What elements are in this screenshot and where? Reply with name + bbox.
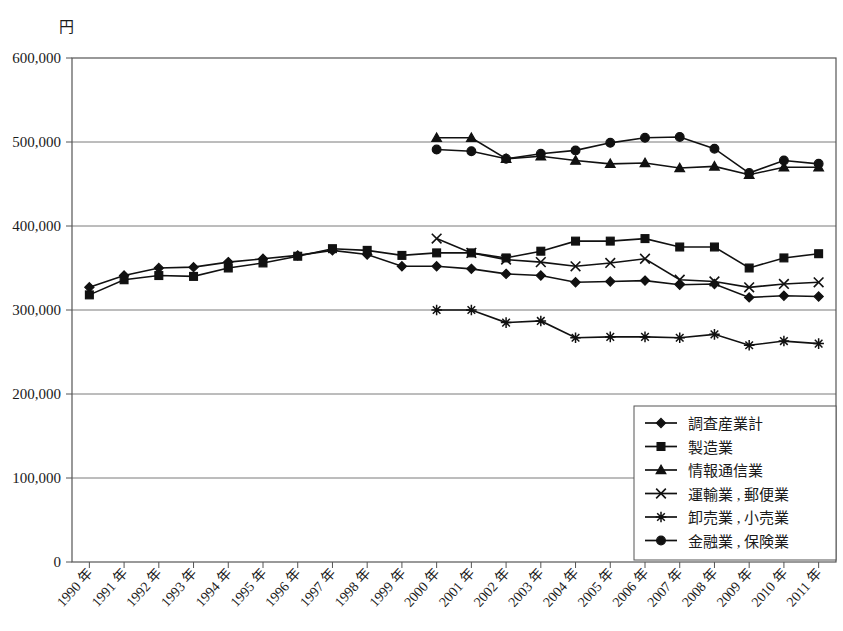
x-tick-label: 1998 年 [332,566,374,610]
marker-square [155,272,163,280]
marker-diamond [814,292,823,301]
x-tick-label: 2010 年 [749,566,791,610]
marker-square [676,243,684,251]
x-tick-label: 2011 年 [784,566,825,609]
marker-square [657,443,665,451]
marker-diamond [432,262,441,271]
marker-square [641,235,649,243]
marker-square [433,249,441,257]
marker-x [432,234,442,244]
marker-circle [675,133,684,142]
legend-label: 製造業 [688,440,733,456]
marker-diamond [675,280,684,289]
x-tick-label: 2006 年 [610,566,652,610]
marker-circle [780,156,789,165]
marker-diamond [189,263,198,272]
marker-circle [432,145,441,154]
y-tick-label: 500,000 [12,134,61,150]
marker-square [815,250,823,258]
marker-asterisk [570,332,581,343]
marker-square [745,264,753,272]
marker-square [780,254,788,262]
marker-square [294,252,302,260]
marker-square [329,245,337,253]
x-tick-label: 2009 年 [714,566,756,610]
x-tick-label: 1999 年 [367,566,409,610]
marker-square [120,276,128,284]
x-tick-label: 1992 年 [123,566,165,610]
marker-circle [467,147,476,156]
marker-circle [641,133,650,142]
legend-label: 運輸業 , 郵便業 [688,487,789,503]
marker-diamond [467,264,476,273]
marker-square [711,243,719,251]
marker-diamond [745,293,754,302]
marker-asterisk [813,338,824,349]
series-line [89,250,818,297]
x-tick-label: 2003 年 [505,566,547,610]
x-tick-label: 1990 年 [54,566,96,610]
legend-label: 金融業 , 保険業 [688,534,789,550]
marker-square [363,246,371,254]
series-line [437,310,819,345]
x-tick-label: 2001 年 [436,566,478,610]
marker-circle [745,169,754,178]
marker-diamond [606,277,615,286]
marker-diamond [501,269,510,278]
series-4 [431,305,824,351]
marker-asterisk [779,336,790,347]
x-tick-label: 1997 年 [297,566,339,610]
x-tick-label: 1996 年 [262,566,304,610]
y-tick-label: 0 [54,554,62,570]
y-tick-label: 600,000 [12,50,61,66]
series-line [437,239,819,288]
x-tick-label: 2000 年 [401,566,443,610]
y-tick-label: 400,000 [12,218,61,234]
y-tick-label: 300,000 [12,302,61,318]
chart-canvas: 円0100,000200,000300,000400,000500,000600… [0,0,843,631]
marker-asterisk [640,332,651,343]
x-tick-label: 2002 年 [471,566,513,610]
x-tick-label: 2008 年 [679,566,721,610]
marker-asterisk [605,332,616,343]
marker-diamond [536,271,545,280]
marker-circle [571,146,580,155]
x-tick-label: 1993 年 [158,566,200,610]
marker-diamond [397,262,406,271]
y-tick-label: 200,000 [12,386,61,402]
x-tick-label: 2004 年 [540,566,582,610]
marker-asterisk [744,340,755,351]
marker-diamond [640,276,649,285]
marker-asterisk [536,316,547,327]
legend-label: 調査産業計 [688,416,763,432]
x-tick-label: 2007 年 [644,566,686,610]
marker-square [85,291,93,299]
y-axis-unit-label: 円 [59,19,74,35]
legend-label: 情報通信業 [688,463,763,479]
marker-circle [606,138,615,147]
marker-diamond [779,291,788,300]
marker-circle [710,144,719,153]
x-tick-label: 1994 年 [193,566,235,610]
marker-asterisk [674,332,685,343]
legend-label: 卸売業 , 小売業 [688,510,789,526]
marker-diamond [571,278,580,287]
x-tick-label: 1991 年 [89,566,131,610]
marker-square [259,259,267,267]
marker-asterisk [431,305,442,316]
y-tick-label: 100,000 [12,470,61,486]
marker-asterisk [501,317,512,328]
x-tick-label: 1995 年 [228,566,270,610]
marker-asterisk [466,305,477,316]
marker-square [606,237,614,245]
line-chart: 円0100,000200,000300,000400,000500,000600… [0,0,843,631]
marker-asterisk [656,512,667,523]
marker-asterisk [709,329,720,340]
marker-square [537,247,545,255]
marker-square [572,237,580,245]
marker-square [398,251,406,259]
marker-circle [814,159,823,168]
x-tick-label: 2005 年 [575,566,617,610]
marker-circle [502,154,511,163]
marker-circle [536,149,545,158]
